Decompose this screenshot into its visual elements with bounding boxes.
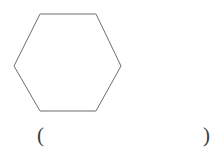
figure-area	[0, 0, 218, 122]
answer-close-paren: )	[203, 122, 210, 148]
answer-blank[interactable]	[50, 125, 202, 147]
hexagon-shape	[0, 0, 218, 122]
answer-open-paren: (	[37, 122, 44, 148]
answer-row: ( )	[0, 122, 218, 156]
hexagon-outline	[14, 14, 121, 111]
figure-page: ( )	[0, 0, 218, 156]
